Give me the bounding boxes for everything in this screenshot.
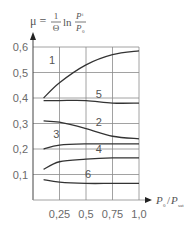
series-curve-4 — [44, 158, 139, 170]
y-tick-label: 0,1 — [13, 169, 28, 181]
y-axis-arrow-icon — [30, 32, 36, 40]
series-curve-5 — [44, 100, 139, 103]
series-curve-6 — [44, 180, 139, 184]
y-tick-label: 0,2 — [13, 143, 28, 155]
series-label-3: 3 — [53, 128, 59, 140]
svg-text:sat: sat — [178, 203, 184, 208]
x-tick-label: 0,25 — [49, 208, 70, 220]
svg-text:P: P — [170, 194, 178, 206]
y-tick-label: 0,5 — [13, 67, 28, 79]
formula-lhs: μ = — [30, 14, 46, 28]
line-chart: μ = 1 Θ ln P i P 0 0,10,20,30,40,50,6 0,… — [0, 0, 193, 226]
svg-text:0: 0 — [163, 203, 166, 208]
chart-series: 123456 — [44, 51, 139, 184]
y-tick-label: 0,3 — [13, 118, 28, 130]
series-curve-1 — [44, 51, 139, 98]
formula-p-num: P — [75, 11, 82, 21]
formula-p-den: P — [75, 23, 82, 33]
x-axis-arrow-icon — [145, 197, 152, 203]
formula-p-num-sub: i — [82, 12, 84, 17]
x-tick-label: 0,75 — [102, 208, 123, 220]
y-tick-label: 0,4 — [13, 92, 28, 104]
series-label-2: 2 — [96, 116, 102, 128]
series-label-1: 1 — [49, 54, 55, 66]
svg-text:P: P — [155, 194, 163, 206]
formula-p-den-sub: 0 — [82, 29, 85, 34]
formula-frac-den: Θ — [53, 23, 60, 33]
series-curve-3 — [44, 144, 139, 149]
y-tick-labels: 0,10,20,30,40,50,6 — [13, 41, 28, 181]
y-tick-label: 0,6 — [13, 41, 28, 53]
chart-formula: μ = 1 Θ ln P i P 0 — [30, 11, 86, 34]
formula-ln: ln — [63, 16, 72, 28]
x-tick-labels: 0,250,50,751,0 — [49, 208, 147, 220]
x-tick-label: 0,5 — [78, 208, 93, 220]
x-tick-label: 1,0 — [131, 208, 146, 220]
series-label-5: 5 — [96, 88, 102, 100]
series-label-6: 6 — [85, 168, 91, 180]
x-axis-label: P 0 / P sat — [155, 194, 184, 208]
series-label-4: 4 — [96, 143, 102, 155]
formula-frac-num: 1 — [54, 11, 59, 21]
